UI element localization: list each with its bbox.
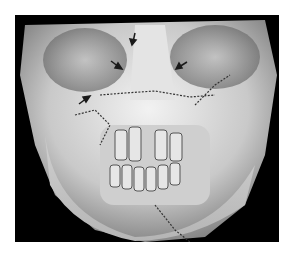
ct-scan-image bbox=[15, 15, 279, 242]
right-orbit bbox=[170, 25, 260, 89]
left-orbit bbox=[43, 28, 127, 92]
skull-render bbox=[15, 15, 279, 242]
